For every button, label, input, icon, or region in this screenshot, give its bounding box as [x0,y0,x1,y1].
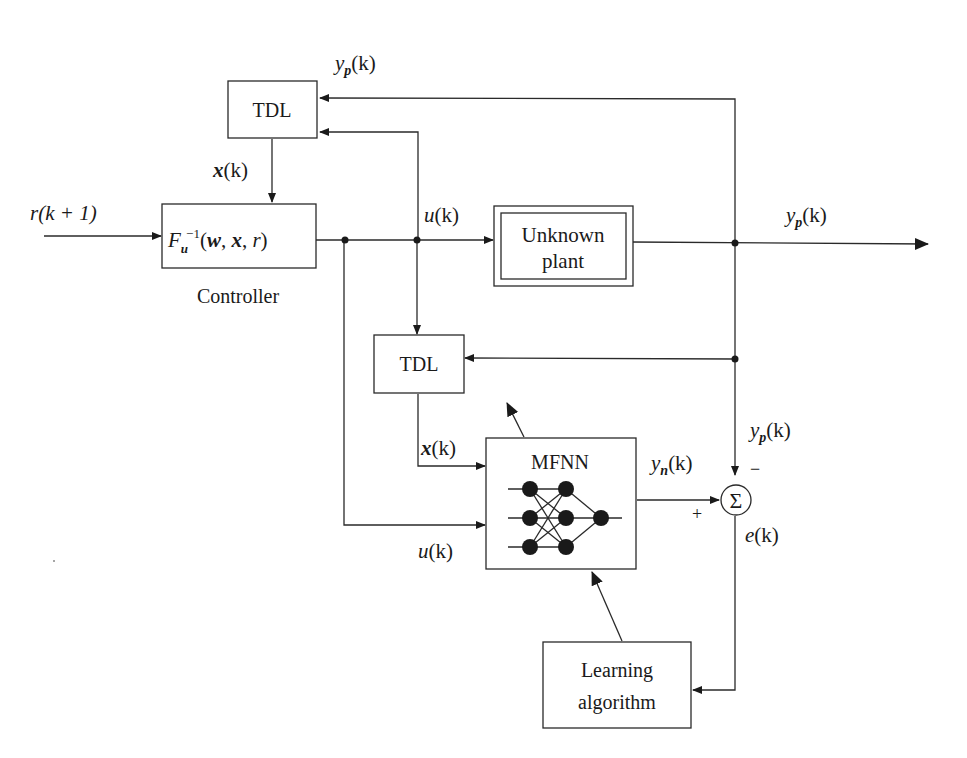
wire-learning-to-mfnn [592,572,622,641]
summer-plus-sign: + [692,504,702,524]
plant-label-line1: Unknown [522,223,605,247]
scan-speck [53,560,55,562]
junction-yp-output [732,240,739,247]
sigma-icon: Σ [730,488,743,513]
summer-minus-sign: − [750,459,760,479]
plant-block: Unknown plant [494,206,633,286]
learning-label-line2: algorithm [578,691,656,714]
junction-controller-out [342,237,349,244]
signal-x-top: x(k) [212,158,248,182]
junction-u [414,237,421,244]
signal-x-mid: x(k) [420,436,456,460]
signal-u-top: u(k) [424,203,459,227]
wire-u-to-tdl-top [320,132,418,240]
tdl-mid-label: TDL [400,353,439,375]
mfnn-adapt-arrow [507,403,524,437]
junction-yp-mid [732,356,739,363]
wire-plant-output [632,242,928,244]
signal-u-bottom: u(k) [418,539,453,563]
tdl-mid-block: TDL [374,335,464,393]
mfnn-label: MFNN [531,451,589,473]
signal-yp-right: yp(k) [748,418,791,445]
block-diagram: TDL Fu−1(w, x, r) Controller Unknown pla… [0,0,967,758]
controller-block: Fu−1(w, x, r) Controller [162,204,316,307]
wire-error-to-learning [693,516,735,690]
signal-yp-top: yp(k) [333,51,376,78]
controller-caption: Controller [197,285,280,307]
tdl-top-label: TDL [253,99,292,121]
learning-label-line1: Learning [581,659,653,682]
signal-r-input: r(k + 1) [30,201,97,225]
learning-algorithm-block: Learning algorithm [543,642,691,728]
signal-yn: yn(k) [649,451,693,478]
wire-yp-to-tdl-mid [465,358,735,359]
mfnn-block: MFNN [486,438,636,569]
tdl-top-block: TDL [228,81,317,138]
summing-junction: Σ + − [692,459,760,524]
plant-label-line2: plant [542,249,584,273]
signal-yp-output: yp(k) [784,203,827,230]
signal-e: e(k) [745,523,779,547]
